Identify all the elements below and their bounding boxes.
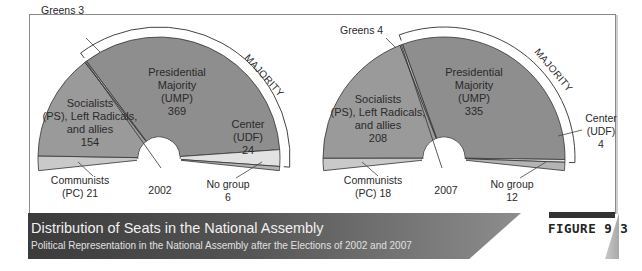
svg-text:369: 369	[168, 105, 186, 117]
year-2007: 2007	[434, 184, 458, 196]
caption-title: Distribution of Seats in the National As…	[31, 220, 324, 236]
svg-text:208: 208	[369, 132, 387, 144]
svg-text:154: 154	[81, 136, 99, 148]
svg-text:Socialists: Socialists	[67, 97, 114, 109]
svg-text:Majority: Majority	[158, 79, 197, 91]
svg-text:Socialists: Socialists	[355, 93, 402, 105]
svg-text:(UMP): (UMP)	[458, 92, 490, 104]
svg-text:(PS), Left Radicals,: (PS), Left Radicals,	[331, 106, 426, 118]
svg-text:Center: Center	[231, 118, 264, 130]
svg-text:Presidential: Presidential	[445, 66, 502, 78]
leader-greens-2007	[386, 38, 396, 48]
svg-text:Presidential: Presidential	[148, 66, 205, 78]
label-udf-2007: Center (UDF) 4	[585, 112, 617, 150]
svg-text:(UDF): (UDF)	[233, 131, 263, 143]
svg-text:12: 12	[506, 191, 518, 203]
label-pc-2007: Communists (PC) 18	[344, 174, 402, 199]
svg-text:No group: No group	[490, 178, 533, 190]
svg-text:Communists: Communists	[51, 174, 109, 186]
svg-text:Communists: Communists	[344, 174, 402, 186]
svg-text:No group: No group	[206, 178, 249, 190]
svg-text:(UMP): (UMP)	[161, 92, 193, 104]
svg-text:(PS), Left Radicals,: (PS), Left Radicals,	[43, 110, 138, 122]
svg-text:335: 335	[465, 105, 483, 117]
svg-text:4: 4	[598, 138, 604, 150]
wedge-communists-pc	[38, 156, 138, 171]
chart-2007: MAJORITY Greens 4 Presidential Majority …	[323, 24, 617, 203]
figure-label-bar	[549, 212, 615, 218]
year-2002: 2002	[148, 184, 172, 196]
svg-text:and allies: and allies	[67, 123, 114, 135]
svg-text:(UDF): (UDF)	[587, 125, 616, 137]
label-pc-2002: Communists (PC) 21	[51, 174, 109, 199]
center-mask	[137, 159, 181, 179]
svg-text:(PC) 18: (PC) 18	[355, 187, 391, 199]
caption-subtitle: Political Representation in the National…	[31, 240, 412, 251]
center-mask	[422, 159, 466, 179]
label-nogroup-2007: No group 12	[490, 178, 533, 203]
svg-text:and allies: and allies	[355, 119, 402, 131]
svg-text:(PC) 21: (PC) 21	[62, 187, 98, 199]
leader-greens-2002	[86, 38, 100, 52]
wedge-communists-pc	[323, 158, 423, 171]
label-nogroup-2002: No group 6	[206, 178, 249, 203]
label-greens-2007: Greens 4	[340, 24, 383, 36]
label-greens-2002: Greens 3	[41, 4, 84, 16]
chart-2002: MAJORITY Greens 3 Presidential Majority …	[38, 4, 290, 203]
svg-text:6: 6	[225, 191, 231, 203]
svg-text:Center: Center	[585, 112, 617, 124]
svg-text:Majority: Majority	[455, 79, 494, 91]
svg-text:24: 24	[242, 144, 254, 156]
